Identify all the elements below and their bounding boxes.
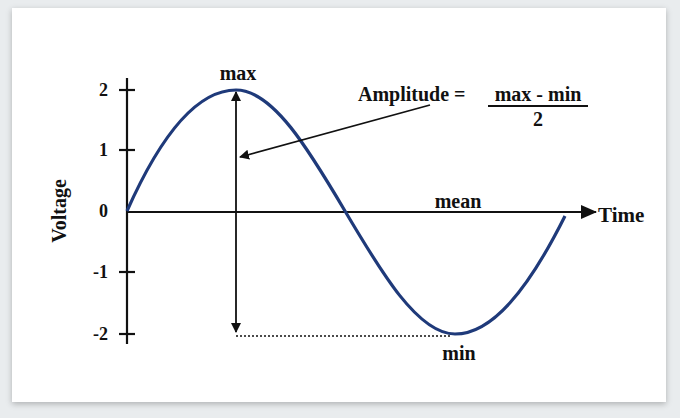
y-tick-label: 0 xyxy=(99,201,108,221)
amplitude-formula-denominator: 2 xyxy=(533,108,543,130)
min-label: min xyxy=(442,342,475,364)
amplitude-formula-numerator: max - min xyxy=(495,83,582,105)
amplitude-pointer-arrow xyxy=(240,105,430,157)
mean-label: mean xyxy=(435,190,482,212)
y-tick-label: -1 xyxy=(93,262,108,282)
amplitude-formula-label: Amplitude = xyxy=(358,83,466,106)
x-axis-label: Time xyxy=(598,203,644,227)
max-label: max xyxy=(220,62,257,84)
sine-wave-diagram: 2 1 0 -1 -2 Voltage Time mean max min Am… xyxy=(0,0,680,418)
y-tick-label: -2 xyxy=(93,324,108,344)
y-axis-label: Voltage xyxy=(48,179,71,243)
y-tick-label: 2 xyxy=(99,80,108,100)
y-tick-label: 1 xyxy=(99,140,108,160)
